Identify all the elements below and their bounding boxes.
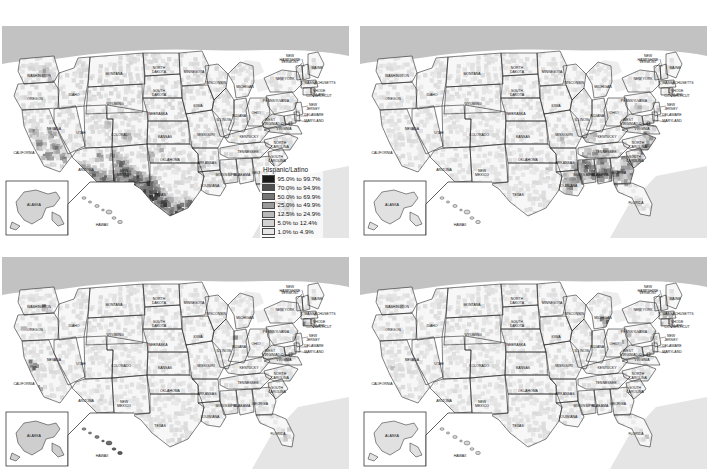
state-label: TENNESSEE [595,150,617,154]
state-label: COLORADO [469,364,489,368]
state-label: OREGON [385,328,401,332]
state-label: VIRGINIA [262,122,278,126]
alaska-inset-label: ALASKA [27,203,42,207]
us-map-svg: WASHINGTONOREGONCALIFORNIANEVADAIDAHOMON… [2,257,349,469]
map-panel-arab-american: WASHINGTONOREGONCALIFORNIANEVADAIDAHOMON… [360,257,707,469]
legend-range-label: 95.0% to 99.7% [278,176,321,182]
legend-row: 0.1% to 0.9% [262,237,321,239]
legend-swatch [262,202,275,209]
state-label: FLORIDA [270,432,286,436]
state-label: KENTUCKY [239,366,259,370]
state-label: MISSOURI [555,133,572,137]
state-label: WYOMING [106,102,124,106]
state-label: WYOMING [464,333,482,337]
state-label: TENNESSEE [595,381,617,385]
state-label: ILLINOIS [575,118,590,122]
state-label: NEVADA [47,358,62,362]
state-label: CAROLINA [626,159,645,163]
state-label: MICHIGAN [236,85,254,89]
state-label: CAROLINA [626,390,645,394]
state-label: ALABAMA [234,173,251,177]
state-label: CAROLINA [629,376,648,380]
state-label: WISCONSIN [206,81,227,85]
state-label: CAROLINA [268,159,287,163]
alaska-inset-label: ALASKA [385,434,400,438]
state-ks [146,351,192,378]
hawaii-inset-label: HAWAII [454,454,467,458]
state-label: VERMONT [281,291,299,295]
state-label: MICHIGAN [236,316,254,320]
state-label: IOWA [551,104,561,108]
state-label: WISCONSIN [564,81,585,85]
state-label: MAINE [669,66,681,70]
state-label: VIRGINIA [620,353,636,357]
state-label: OREGON [385,97,401,101]
state-label: ARIZONA [78,168,94,172]
state-label: MEXICO [117,404,131,408]
state-ks [504,120,550,147]
state-label: MASSACHUSETTS [304,312,336,316]
state-label: LOUISIANA [559,184,578,188]
legend-row: 5.0% to 12.4% [262,219,321,227]
state-label: GEORGIA [252,402,269,406]
state-label: UTAH [76,362,86,366]
state-label: COLORADO [111,364,131,368]
state-label: DELAWARE [304,344,324,348]
state-label: GEORGIA [610,171,627,175]
state-label: UTAH [434,362,444,366]
state-label: JERSEY [306,338,320,342]
state-label: MAINE [669,297,681,301]
state-label: VERMONT [281,60,299,64]
state-label: NEBRASKA [148,112,168,116]
state-label: IDAHO [68,93,79,97]
state-label: MEXICO [117,173,131,177]
state-label: CAROLINA [271,145,290,149]
state-label: D.C. [278,122,285,126]
legend-title: Hispanic/Latino [263,167,321,174]
state-label: ARKANSAS [197,392,217,396]
state-label: MISSOURI [197,133,214,137]
state-label: INDIANA [232,114,247,118]
state-label: IDAHO [426,93,437,97]
hawaii-inset-label: HAWAII [454,223,467,227]
state-label: JERSEY [664,338,678,342]
state-label: NEVADA [405,358,420,362]
state-label: VIRGINIA [620,122,636,126]
state-label: DELAWARE [662,113,682,117]
state-label: MINNESOTA [184,70,205,74]
state-label: IDAHO [68,324,79,328]
state-label: OKLAHOMA [518,389,539,393]
state-label: KENTUCKY [597,366,617,370]
state-label: DAKOTA [152,324,167,328]
state-label: MAINE [311,66,323,70]
us-map-svg: WASHINGTONOREGONCALIFORNIANEVADAIDAHOMON… [360,26,707,238]
state-label: DELAWARE [304,113,324,117]
state-label: UTAH [76,131,86,135]
state-label: LOUISIANA [201,415,220,419]
state-label: CALIFORNIA [13,382,35,386]
state-label: WISCONSIN [564,312,585,316]
state-label: ILLINOIS [217,118,232,122]
state-label: DAKOTA [510,70,525,74]
legend-swatch [262,228,275,235]
state-label: WASHINGTON [27,74,51,78]
alaska-inset-label: ALASKA [27,434,42,438]
state-label: MICHIGAN [594,316,612,320]
map-canvas-asian-american: WASHINGTONOREGONCALIFORNIANEVADAIDAHOMON… [2,257,349,469]
state-label: D.C. [636,353,643,357]
state-label: IOWA [193,335,203,339]
state-label: ARIZONA [436,168,452,172]
state-label: INDIANA [590,345,605,349]
state-label: IOWA [551,335,561,339]
us-map-svg: WASHINGTONOREGONCALIFORNIANEVADAIDAHOMON… [360,257,707,469]
state-label: OHIO [610,342,619,346]
state-label: MASSACHUSETTS [662,312,694,316]
state-label: DAKOTA [152,70,167,74]
legend-row: 25.0% to 49.9% [262,201,321,209]
state-label: TENNESSEE [237,381,259,385]
legend-range-label: 1.0% to 4.9% [278,229,314,235]
legend-row: 12.5% to 24.9% [262,210,321,218]
state-label: DAKOTA [510,301,525,305]
legend-swatch [262,184,275,191]
state-label: WISCONSIN [206,312,227,316]
